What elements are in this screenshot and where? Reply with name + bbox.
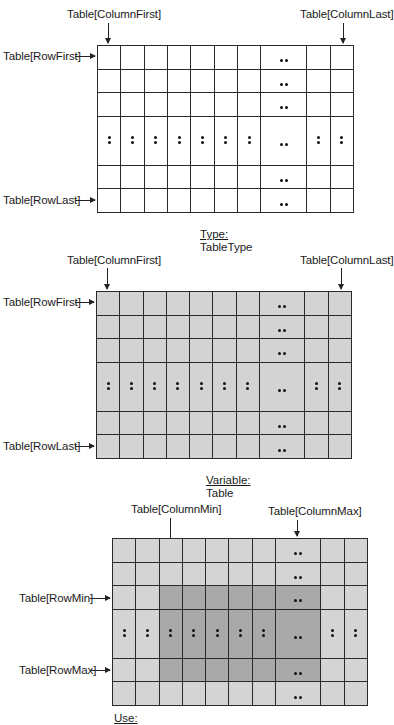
label-row-first: Table[RowFirst]	[3, 296, 81, 309]
ellipsis-horizontal-icon	[279, 95, 289, 113]
grid-cell	[98, 93, 121, 117]
grid-cell	[120, 362, 143, 411]
grid-cell	[307, 69, 330, 93]
grid-cell	[344, 562, 367, 586]
ellipsis-horizontal-icon	[293, 541, 303, 559]
grid-cell	[259, 339, 305, 363]
grid-cell	[120, 435, 143, 459]
grid-cell	[259, 292, 305, 316]
ellipsis-vertical-icon	[246, 380, 249, 392]
ellipsis-vertical-icon	[338, 380, 341, 392]
grid-cell	[143, 435, 166, 459]
ellipsis-horizontal-icon	[277, 378, 287, 396]
grid-cell	[120, 339, 143, 363]
grid-cell	[143, 292, 166, 316]
grid-cell	[136, 562, 159, 586]
arrow-column-max	[297, 520, 298, 536]
grid-cell	[252, 609, 275, 658]
grid-cell	[259, 411, 305, 435]
grid-cell	[191, 116, 214, 165]
caption-kind: Variable:	[206, 474, 251, 487]
grid-cell	[238, 93, 261, 117]
grid-row	[113, 682, 368, 706]
grid-cell	[144, 46, 167, 70]
arrow-column-first	[107, 268, 108, 289]
grid-cell	[97, 292, 120, 316]
grid-cell	[206, 609, 229, 658]
ellipsis-vertical-icon	[131, 134, 134, 146]
grid-cell	[190, 315, 213, 339]
ellipsis-vertical-icon	[224, 134, 227, 146]
grid-cell	[321, 682, 344, 706]
grid-cell	[191, 165, 214, 189]
ellipsis-vertical-icon	[154, 134, 157, 146]
grid-cell	[229, 658, 252, 682]
grid-cell	[307, 46, 330, 70]
grid-cell	[307, 165, 330, 189]
grid-cell	[191, 69, 214, 93]
grid-cell	[321, 609, 344, 658]
grid-row	[97, 362, 352, 411]
label-row-max: Table[RowMax]	[19, 664, 96, 677]
grid-cell	[330, 46, 353, 70]
grid-cell	[98, 116, 121, 165]
grid-cell	[166, 292, 189, 316]
grid-cell	[144, 116, 167, 165]
ellipsis-vertical-icon	[107, 380, 110, 392]
grid-cell	[328, 339, 351, 363]
grid-cell	[344, 609, 367, 658]
grid-cell	[330, 116, 353, 165]
grid-cell	[214, 46, 237, 70]
grid-row	[97, 411, 352, 435]
grid-cell	[236, 435, 259, 459]
ellipsis-horizontal-icon	[293, 661, 303, 679]
grid-cell	[259, 362, 305, 411]
caption-kind: Type:	[200, 228, 252, 241]
table-grid	[112, 538, 368, 706]
grid-row	[98, 69, 354, 93]
grid-cell	[328, 411, 351, 435]
grid-cell	[182, 609, 205, 658]
grid-cell	[159, 609, 182, 658]
grid-cell	[213, 315, 236, 339]
grid-row	[97, 315, 352, 339]
grid-cell	[328, 435, 351, 459]
grid-cell	[236, 292, 259, 316]
grid-cell	[168, 69, 191, 93]
arrow-row-last	[75, 446, 94, 447]
arrow-row-last	[75, 200, 95, 201]
grid-cell	[261, 46, 307, 70]
grid-cell	[275, 658, 321, 682]
grid-cell	[213, 411, 236, 435]
ellipsis-horizontal-icon	[293, 565, 303, 583]
grid-cell	[330, 69, 353, 93]
arrow-row-first	[75, 56, 95, 57]
arrow-row-max	[90, 670, 110, 671]
grid-cell	[168, 116, 191, 165]
grid-cell	[159, 658, 182, 682]
ellipsis-horizontal-icon	[293, 625, 303, 643]
grid-cell	[143, 339, 166, 363]
grid-cell	[275, 682, 321, 706]
grid-cell	[166, 362, 189, 411]
grid-row	[97, 435, 352, 459]
ellipsis-vertical-icon	[153, 380, 156, 392]
grid-cell	[190, 292, 213, 316]
grid-cell	[113, 658, 136, 682]
grid-cell	[229, 609, 252, 658]
grid-cell	[328, 292, 351, 316]
grid-cell	[168, 189, 191, 213]
grid-cell	[121, 116, 144, 165]
grid-cell	[214, 116, 237, 165]
ellipsis-vertical-icon	[354, 627, 357, 639]
ellipsis-vertical-icon	[317, 134, 320, 146]
ellipsis-horizontal-icon	[279, 168, 289, 186]
grid-cell	[213, 292, 236, 316]
ellipsis-vertical-icon	[340, 134, 343, 146]
grid-cell	[214, 93, 237, 117]
label-column-min: Table[ColumnMin]	[131, 503, 221, 516]
grid-cell	[182, 562, 205, 586]
grid-cell	[229, 586, 252, 610]
caption-variable: Variable: Table	[206, 474, 251, 500]
grid-cell	[275, 609, 321, 658]
